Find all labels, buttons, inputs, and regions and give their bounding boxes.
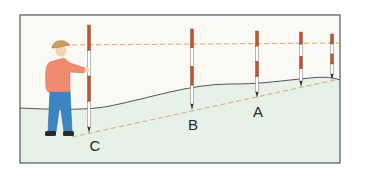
rod-segment [191, 67, 194, 86]
rod-segment [88, 102, 91, 128]
rod-segment [88, 76, 91, 102]
rod-segment [331, 64, 334, 74]
surveyor-boot-right [63, 131, 74, 136]
rod-b [191, 29, 194, 110]
rod-segment [256, 31, 259, 46]
label-a: A [253, 103, 263, 120]
rod-segment [191, 85, 194, 104]
label-b: B [188, 116, 198, 133]
rod-segment [300, 32, 303, 44]
surveyor-boot-left [45, 131, 56, 136]
rod-a [256, 31, 259, 98]
rod-4 [300, 32, 303, 87]
rod-segment [88, 25, 91, 51]
rod-segment [300, 57, 303, 69]
rod-c [88, 25, 91, 133]
rod-segment [191, 29, 194, 48]
rod-segment [331, 54, 334, 64]
rod-segment [331, 34, 334, 44]
surveying-diagram: C B A [0, 0, 366, 170]
rod-segment [191, 48, 194, 67]
rod-segment [256, 77, 259, 92]
rod-segment [256, 46, 259, 61]
surveyor-hand [85, 68, 90, 73]
rod-segment [300, 44, 303, 56]
rod-segment [256, 62, 259, 77]
rod-segment [300, 69, 303, 81]
rod-segment [331, 44, 334, 54]
label-c: C [90, 137, 101, 154]
rod-5 [331, 34, 334, 80]
